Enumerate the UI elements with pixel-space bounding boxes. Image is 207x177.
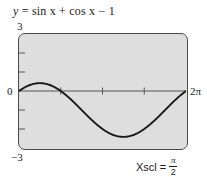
plot-canvas	[19, 34, 186, 148]
y-axis-min-label: −3	[11, 152, 23, 163]
equation-equals: =	[19, 4, 32, 18]
xscl-denominator: 2	[170, 168, 177, 177]
xscl-numerator: π	[170, 156, 177, 165]
y-axis-max-label: 3	[17, 21, 23, 32]
plot-frame	[18, 33, 188, 150]
x-axis-max-label: 2π	[190, 86, 201, 97]
xscl-name: Xscl	[136, 161, 157, 174]
xscl-fraction: π 2	[169, 156, 177, 177]
equation-title: y = sin x + cos x − 1	[13, 4, 115, 18]
origin-label: 0	[7, 86, 13, 97]
xscl-equals: =	[160, 161, 166, 174]
equation-rhs: sin x + cos x − 1	[32, 4, 115, 18]
xscl-annotation: Xscl = π 2	[136, 157, 177, 177]
